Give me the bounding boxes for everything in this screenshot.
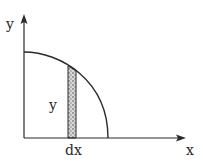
x-axis <box>24 135 186 142</box>
shaded-strip <box>68 66 76 138</box>
y-axis-label: y <box>6 17 14 31</box>
quarter-circle-strip-diagram: y y dx x <box>0 0 203 166</box>
x-axis-label: x <box>186 143 194 157</box>
diagram-canvas <box>0 0 203 166</box>
quarter-circle-arc <box>24 52 108 138</box>
y-axis <box>21 14 28 138</box>
strip-width-label: dx <box>65 143 82 157</box>
strip-height-label: y <box>49 98 57 112</box>
